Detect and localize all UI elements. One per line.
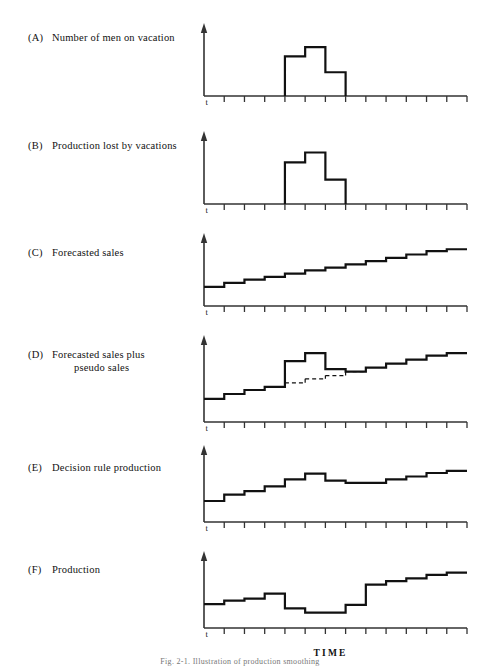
axis-origin-marker: t (206, 307, 209, 317)
panel-label-d: (D)Forecasted sales pluspseudo sales (28, 348, 145, 374)
series-step-e (204, 471, 467, 501)
panel-label-c: (C)Forecasted sales (28, 246, 124, 259)
y-axis-arrow-icon (201, 23, 207, 33)
axis-origin-marker: t (206, 205, 209, 215)
panel-plot-e: t (195, 440, 480, 540)
panel-label-a: (A)Number of men on vacation (28, 31, 175, 44)
axis-origin-marker: t (206, 523, 209, 533)
series-pulse-a (285, 47, 346, 96)
panel-title-f: Production (52, 564, 100, 575)
series-pulse-b (285, 153, 346, 204)
y-axis-arrow-icon (201, 445, 207, 455)
figure-caption: Fig. 2-1. Illustration of production smo… (0, 657, 480, 666)
y-axis-arrow-icon (201, 335, 207, 345)
panel-tag-a: (A) (28, 31, 52, 44)
y-axis-arrow-icon (201, 551, 207, 561)
panel-label-e: (E)Decision rule production (28, 461, 161, 474)
panel-title-a: Number of men on vacation (52, 32, 175, 43)
panel-tag-f: (F) (28, 563, 52, 576)
y-axis-arrow-icon (201, 233, 207, 243)
figure-production-smoothing: (A)Number of men on vacationt(B)Producti… (0, 0, 480, 667)
panel-tag-e: (E) (28, 461, 52, 474)
panel-plot-b: t (195, 126, 480, 222)
panel-tag-c: (C) (28, 246, 52, 259)
panel-title-b: Production lost by vacations (52, 140, 177, 151)
panel-title-d: Forecasted sales plus (52, 349, 145, 360)
axis-origin-marker: t (206, 629, 209, 639)
panel-plot-a: t (195, 18, 480, 114)
series-step-c (204, 249, 467, 287)
axis-origin-marker: t (206, 97, 209, 107)
panel-plot-d: t (195, 330, 480, 440)
panel-title-d-line2: pseudo sales (28, 361, 145, 374)
series-step-f (204, 573, 467, 613)
panel-tag-b: (B) (28, 139, 52, 152)
panel-label-b: (B)Production lost by vacations (28, 139, 177, 152)
panel-plot-c: t (195, 228, 480, 324)
panel-label-f: (F)Production (28, 563, 100, 576)
panel-title-c: Forecasted sales (52, 247, 124, 258)
panel-title-e: Decision rule production (52, 462, 161, 473)
axis-origin-marker: t (206, 423, 209, 433)
y-axis-arrow-icon (201, 131, 207, 141)
panel-plot-f: t (195, 546, 480, 646)
series-baseline-dashed-d (285, 372, 366, 383)
panel-tag-d: (D) (28, 348, 52, 361)
